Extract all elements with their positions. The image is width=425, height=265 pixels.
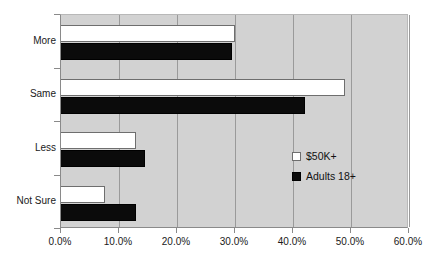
legend: $50K+Adults 18+ <box>292 146 356 186</box>
x-axis-label: 40.0% <box>267 236 317 247</box>
x-axis-label: 0.0% <box>35 236 85 247</box>
bar-less-50k <box>61 132 136 149</box>
y-axis-tick <box>54 175 60 176</box>
x-axis-tick <box>60 228 61 233</box>
y-axis-label-more: More <box>33 35 56 46</box>
x-axis-tick <box>176 228 177 233</box>
gridline <box>293 15 294 227</box>
x-axis-tick <box>234 228 235 233</box>
legend-item[interactable]: $50K+ <box>292 146 356 166</box>
y-axis-label-same: Same <box>30 88 56 99</box>
legend-label: Adults 18+ <box>306 170 356 182</box>
x-axis-label: 30.0% <box>209 236 259 247</box>
legend-swatch-icon <box>292 172 301 181</box>
x-axis-label: 10.0% <box>93 236 143 247</box>
x-axis-tick <box>408 228 409 233</box>
legend-label: $50K+ <box>306 150 337 162</box>
bar-not-sure-adults-18 <box>61 204 136 221</box>
y-axis-tick <box>54 121 60 122</box>
gridline <box>351 15 352 227</box>
gridline <box>235 15 236 227</box>
y-axis-label-less: Less <box>35 142 56 153</box>
bar-same-adults-18 <box>61 97 305 114</box>
plot-area <box>60 14 408 228</box>
bar-not-sure-50k <box>61 186 105 203</box>
bar-chart: MoreSameLessNot Sure 0.0%10.0%20.0%30.0%… <box>0 0 425 265</box>
legend-item[interactable]: Adults 18+ <box>292 166 356 186</box>
x-axis-tick <box>350 228 351 233</box>
bar-more-50k <box>61 25 235 42</box>
x-axis-tick <box>292 228 293 233</box>
x-axis-label: 60.0% <box>383 236 425 247</box>
bar-less-adults-18 <box>61 150 145 167</box>
bar-same-50k <box>61 79 345 96</box>
bar-more-adults-18 <box>61 43 232 60</box>
x-axis-label: 50.0% <box>325 236 375 247</box>
y-axis-tick <box>54 68 60 69</box>
y-axis-tick <box>54 14 60 15</box>
y-axis-label-not-sure: Not Sure <box>17 195 56 206</box>
x-axis-tick <box>118 228 119 233</box>
gridline <box>409 15 410 227</box>
legend-swatch-icon <box>292 152 301 161</box>
x-axis-label: 20.0% <box>151 236 201 247</box>
